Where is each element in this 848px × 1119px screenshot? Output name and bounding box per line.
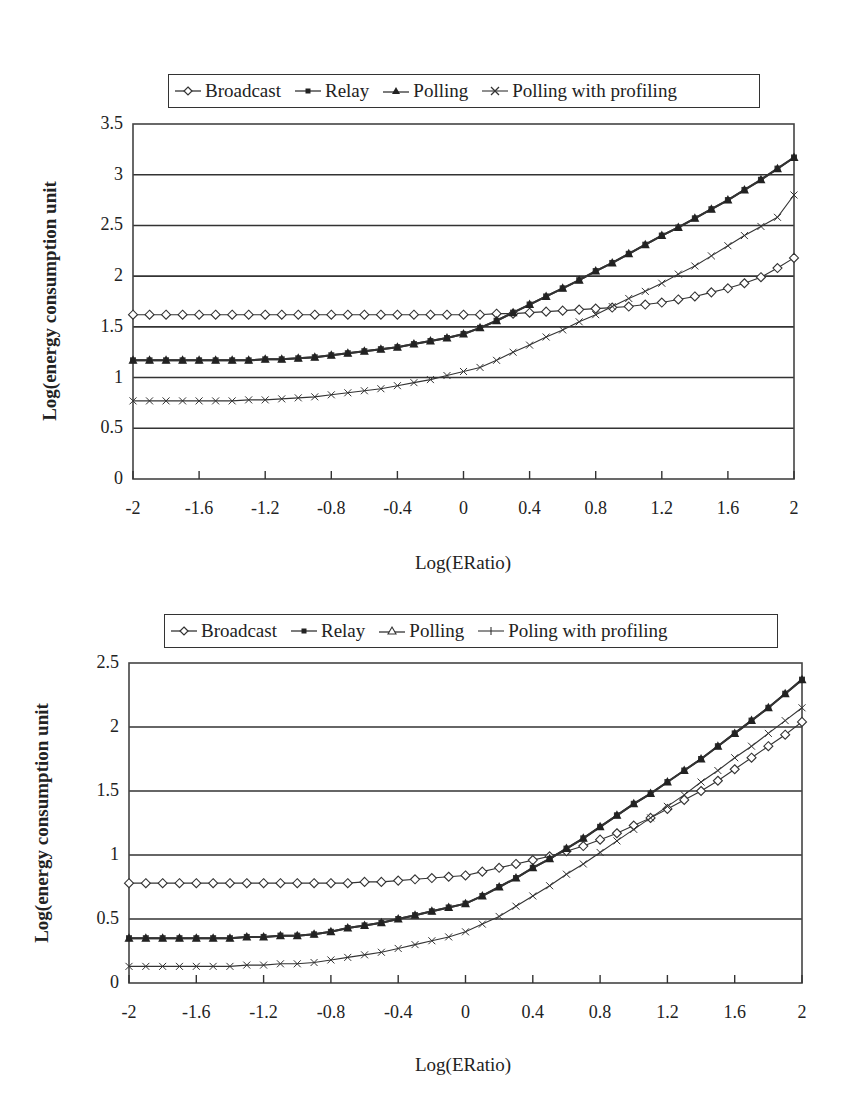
y-tick-label: 1: [79, 844, 119, 865]
x-axis-label: Log(ERatio): [313, 1054, 613, 1076]
x-tick-label: 0: [441, 1002, 491, 1023]
x-tick-label: 2: [777, 1002, 827, 1023]
y-tick-label: 2: [79, 716, 119, 737]
y-tick-label: 0: [79, 972, 119, 993]
y-tick-label: 2.5: [79, 652, 119, 673]
x-tick-label: -1.6: [171, 1002, 221, 1023]
x-tick-label: 1.6: [710, 1002, 760, 1023]
y-axis-label: Log(energy consumption unit: [31, 673, 53, 973]
x-tick-label: -2: [104, 1002, 154, 1023]
chart-bottom: Broadcast Relay Polling Poling with prof…: [0, 0, 848, 1119]
x-tick-label: -0.8: [306, 1002, 356, 1023]
x-tick-label: -1.2: [239, 1002, 289, 1023]
x-tick-label: 0.8: [575, 1002, 625, 1023]
x-tick-label: 0.4: [508, 1002, 558, 1023]
y-tick-label: 1.5: [79, 780, 119, 801]
plot-area: [0, 0, 848, 1119]
y-tick-label: 0.5: [79, 908, 119, 929]
x-tick-label: -0.4: [373, 1002, 423, 1023]
x-tick-label: 1.2: [642, 1002, 692, 1023]
